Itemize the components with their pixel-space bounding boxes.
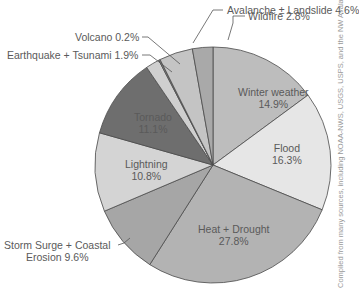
label-storm-surge: Storm Surge + Coastal Erosion 9.6%	[4, 239, 111, 263]
label-value: 16.3%	[272, 154, 302, 166]
label-volcano: Volcano 0.2%	[75, 31, 139, 43]
label-tornado: Tornado 11.1%	[134, 111, 172, 135]
label-name: Heat + Drought	[198, 223, 270, 235]
label-value: 11.1%	[134, 123, 172, 135]
label-value: 27.8%	[198, 235, 270, 247]
label-heat-drought: Heat + Drought 27.8%	[198, 223, 270, 247]
leader-wildfire	[228, 16, 245, 40]
label-value: 10.8%	[125, 170, 168, 182]
label-wildfire: Wildfire 2.8%	[248, 10, 310, 22]
label-name: Lightning	[125, 158, 168, 170]
label-lightning: Lightning 10.8%	[125, 158, 168, 182]
label-flood: Flood 16.3%	[272, 142, 302, 166]
leader-avalanche	[193, 10, 223, 43]
label-earthquake: Earthquake + Tsunami 1.9%	[7, 49, 138, 61]
label-value: 14.9%	[238, 98, 309, 110]
label-name: Winter weather	[238, 86, 309, 98]
label-name: Storm Surge + Coastal	[4, 239, 111, 251]
label-value: Erosion 9.6%	[4, 251, 111, 263]
label-winter-weather: Winter weather 14.9%	[238, 86, 309, 110]
label-name: Tornado	[134, 111, 172, 123]
label-name: Flood	[272, 142, 302, 154]
source-credit: Compiled from many sources, including NO…	[336, 0, 345, 288]
